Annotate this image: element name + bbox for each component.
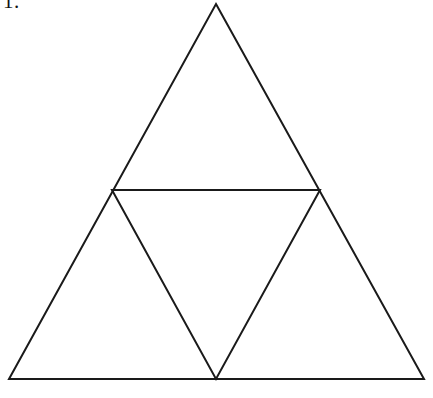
outer-triangle bbox=[9, 4, 424, 379]
figure-page: 1. bbox=[0, 0, 433, 398]
triangle-figure bbox=[0, 0, 433, 398]
inner-inverted-triangle bbox=[112, 190, 320, 379]
